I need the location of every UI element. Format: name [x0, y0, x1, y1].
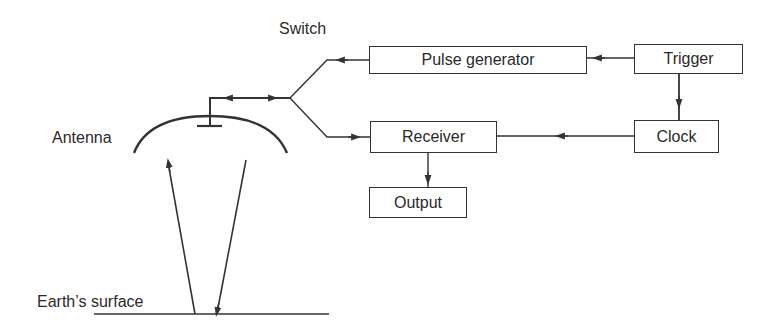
clock-block: Clock — [634, 120, 719, 153]
earth-surface-label: Earth’s surface — [37, 294, 143, 310]
reflected-signal-line — [169, 168, 195, 314]
trigger-block: Trigger — [634, 44, 743, 74]
output-block: Output — [369, 187, 467, 218]
antenna-label: Antenna — [52, 130, 112, 146]
transmitted-signal-arrow-icon — [217, 302, 219, 312]
pulse-to-switch-line — [290, 60, 369, 98]
radar-block-diagram: Switch Antenna Earth’s surface Pulse gen… — [0, 0, 777, 331]
switch-label: Switch — [279, 21, 326, 37]
switch-to-receiver-line — [290, 98, 370, 137]
pulse-generator-block: Pulse generator — [369, 46, 587, 74]
receiver-block: Receiver — [370, 121, 497, 153]
transmitted-signal-line — [218, 160, 246, 308]
